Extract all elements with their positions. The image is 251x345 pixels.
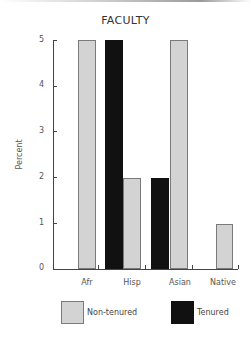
y-tick-5 — [53, 40, 57, 41]
y-tick-label-5: 5 — [30, 35, 44, 44]
bar-native-non-tenured — [216, 224, 233, 269]
y-tick-0 — [53, 269, 57, 270]
bar-asian-tenured — [151, 178, 169, 269]
x-axis — [53, 269, 238, 270]
y-axis-label: Percent — [15, 130, 24, 180]
legend-swatch-non-tenured — [61, 301, 84, 324]
top-edge-line — [0, 0, 251, 2]
y-tick-3 — [53, 131, 57, 132]
legend-label-non-tenured: Non-tenured — [87, 308, 137, 317]
x-label-afr: Afr — [62, 278, 112, 287]
y-tick-2 — [53, 177, 57, 178]
y-tick-label-0: 0 — [30, 263, 44, 272]
y-tick-4 — [53, 86, 57, 87]
bar-hisp-non-tenured — [123, 178, 141, 269]
x-tick-2 — [145, 265, 146, 269]
bar-afr-non-tenured — [78, 40, 96, 269]
bar-hisp-tenured — [105, 40, 123, 269]
legend-swatch-tenured — [171, 301, 194, 324]
x-tick-1 — [98, 265, 99, 269]
x-label-hisp: Hisp — [107, 278, 157, 287]
bar-asian-non-tenured — [170, 40, 188, 269]
y-tick-1 — [53, 223, 57, 224]
x-label-native: Native — [198, 278, 248, 287]
legend-label-tenured: Tenured — [197, 308, 229, 317]
x-tick-3 — [192, 265, 193, 269]
y-tick-label-2: 2 — [30, 172, 44, 181]
chart-title: FACULTY — [0, 14, 251, 27]
y-axis — [53, 40, 54, 269]
x-tick-4 — [238, 265, 239, 269]
y-tick-label-1: 1 — [30, 218, 44, 227]
y-tick-label-3: 3 — [30, 126, 44, 135]
y-tick-label-4: 4 — [30, 80, 44, 89]
